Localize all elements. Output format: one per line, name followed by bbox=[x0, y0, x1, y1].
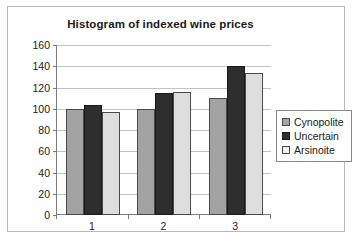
bar bbox=[173, 92, 191, 215]
legend-item[interactable]: Cynopolite bbox=[282, 115, 347, 129]
y-axis-tick-label: 120 bbox=[32, 82, 50, 94]
legend-item-label: Uncertain bbox=[294, 130, 339, 142]
x-axis-tick-label: 3 bbox=[232, 220, 238, 232]
y-axis-tick-label: 100 bbox=[32, 103, 50, 115]
y-axis-tick-label: 20 bbox=[38, 188, 50, 200]
bar bbox=[245, 73, 263, 215]
legend-swatch-icon bbox=[282, 118, 290, 126]
bar-group bbox=[57, 45, 129, 215]
chart-legend: CynopoliteUncertainArsinoite bbox=[276, 110, 352, 162]
x-axis-tick bbox=[270, 215, 271, 219]
x-axis-tick bbox=[56, 215, 57, 219]
x-axis-tick-label: 2 bbox=[161, 220, 167, 232]
x-axis-tick bbox=[199, 215, 200, 219]
bar bbox=[209, 98, 227, 215]
x-axis-tick-label: 1 bbox=[89, 220, 95, 232]
bar bbox=[137, 109, 155, 215]
legend-swatch-icon bbox=[282, 132, 290, 140]
legend-item-label: Arsinoite bbox=[294, 144, 335, 156]
chart-frame: Histogram of indexed wine prices 0204060… bbox=[7, 6, 345, 232]
y-axis-tick-label: 140 bbox=[32, 60, 50, 72]
bar bbox=[102, 112, 120, 215]
y-axis-tick-label: 80 bbox=[38, 124, 50, 136]
plot-area: 020406080100120140160 bbox=[56, 45, 271, 215]
y-axis-tick-label: 0 bbox=[44, 209, 50, 221]
legend-item[interactable]: Uncertain bbox=[282, 129, 347, 143]
bar bbox=[66, 109, 84, 215]
legend-item-label: Cynopolite bbox=[294, 116, 344, 128]
y-axis-tick-label: 160 bbox=[32, 39, 50, 51]
bar bbox=[227, 66, 245, 215]
y-axis-tick-label: 60 bbox=[38, 145, 50, 157]
y-axis-tick-label: 40 bbox=[38, 167, 50, 179]
chart-title: Histogram of indexed wine prices bbox=[48, 18, 273, 30]
x-axis-labels: 123 bbox=[56, 220, 271, 236]
bar-group bbox=[200, 45, 272, 215]
legend-item[interactable]: Arsinoite bbox=[282, 143, 347, 157]
legend-swatch-icon bbox=[282, 146, 290, 154]
bar bbox=[155, 93, 173, 215]
x-axis-tick bbox=[128, 215, 129, 219]
bar-group bbox=[129, 45, 201, 215]
bar bbox=[84, 105, 102, 216]
